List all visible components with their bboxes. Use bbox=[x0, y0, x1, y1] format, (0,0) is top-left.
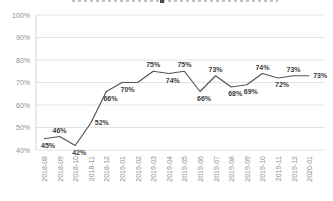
chart-panel: 100%90%80%70%60%50%40%45%46%42%52%66%70%… bbox=[0, 0, 333, 201]
data-point-label: 74% bbox=[166, 77, 181, 84]
data-point-label: 73% bbox=[209, 66, 224, 73]
data-point-label: 73% bbox=[287, 66, 302, 73]
data-point-label: 68% bbox=[228, 90, 243, 97]
x-axis-tick-label: 2019-02 bbox=[135, 156, 142, 182]
x-axis-tick-label: 2019-04 bbox=[166, 156, 173, 182]
y-axis-tick-label: 60% bbox=[16, 102, 30, 109]
y-axis-tick-label: 40% bbox=[16, 147, 30, 154]
x-axis-tick-label: 2019-03 bbox=[150, 156, 157, 182]
x-axis-tick-label: 2018-11 bbox=[88, 156, 95, 181]
x-axis-tick-label: 2018-12 bbox=[103, 156, 110, 182]
y-axis-tick-label: 100% bbox=[12, 12, 30, 19]
x-axis-tick-label: 2019-01 bbox=[119, 156, 126, 182]
title-descender-fragment bbox=[160, 0, 164, 3]
x-axis-tick-label: 2019-11 bbox=[275, 156, 282, 181]
x-axis-tick-label: 2019-09 bbox=[244, 156, 251, 182]
data-point-label: 66% bbox=[103, 95, 118, 102]
x-axis-tick-label: 2018-08 bbox=[41, 156, 48, 182]
y-axis-tick-label: 90% bbox=[16, 34, 30, 41]
data-point-label: 75% bbox=[146, 61, 161, 68]
x-axis-tick-label: 2019-05 bbox=[181, 156, 188, 182]
data-point-label: 52% bbox=[95, 119, 110, 126]
data-point-label: 69% bbox=[244, 88, 259, 95]
clipped-title-text-fragment bbox=[72, 0, 278, 2]
data-point-label: 74% bbox=[255, 64, 270, 71]
y-axis-tick-label: 70% bbox=[16, 79, 30, 86]
data-point-label: 70% bbox=[121, 86, 136, 93]
x-axis-tick-label: 2019-07 bbox=[213, 156, 220, 182]
data-point-label: 66% bbox=[197, 95, 212, 102]
y-axis-tick-label: 50% bbox=[16, 124, 30, 131]
x-axis-tick-label: 2019-12 bbox=[291, 156, 298, 182]
data-point-label: 73% bbox=[313, 72, 328, 79]
x-axis-tick-label: 2020-01 bbox=[306, 156, 313, 182]
data-point-label: 42% bbox=[72, 149, 87, 156]
x-axis-tick-label: 2018-09 bbox=[57, 156, 64, 182]
x-axis-tick-label: 2018-10 bbox=[72, 156, 79, 182]
x-axis-tick-label: 2019-10 bbox=[259, 156, 266, 182]
y-axis-tick-label: 80% bbox=[16, 57, 30, 64]
data-point-label: 45% bbox=[41, 142, 56, 149]
data-point-label: 72% bbox=[275, 81, 290, 88]
line-chart: 100%90%80%70%60%50%40%45%46%42%52%66%70%… bbox=[0, 0, 333, 201]
data-point-label: 46% bbox=[53, 127, 68, 134]
data-point-label: 75% bbox=[177, 61, 192, 68]
clipped-chart-title bbox=[72, 0, 278, 3]
x-axis-tick-label: 2019-06 bbox=[197, 156, 204, 182]
x-axis-tick-label: 2019-08 bbox=[228, 156, 235, 182]
